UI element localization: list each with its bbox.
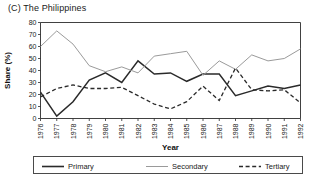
y-tick-label: 60 <box>29 43 37 50</box>
series-line-secondary <box>41 31 301 75</box>
x-tick-label: 1990 <box>265 123 272 139</box>
x-tick-label: 1988 <box>232 123 239 139</box>
x-tick-label: 1986 <box>200 123 207 139</box>
x-tick-label: 1985 <box>183 123 190 139</box>
plot-area: 0102030405060708019761977197819791980198… <box>0 0 311 179</box>
legend-swatch-primary-icon <box>42 163 64 170</box>
legend-item-secondary: Secondary <box>146 157 208 175</box>
x-tick-label: 1989 <box>248 123 255 139</box>
x-tick-label: 1980 <box>102 123 109 139</box>
y-tick-label: 30 <box>29 79 37 86</box>
y-tick-label: 0 <box>33 115 37 122</box>
y-axis-title: Share (%) <box>3 52 12 89</box>
legend-label: Secondary <box>172 162 208 171</box>
y-tick-label: 10 <box>29 103 37 110</box>
y-tick-label: 50 <box>29 55 37 62</box>
x-tick-label: 1979 <box>86 123 93 139</box>
y-tick-label: 20 <box>29 91 37 98</box>
series-line-primary <box>41 61 301 116</box>
legend-swatch-secondary-icon <box>146 163 168 170</box>
x-tick-label: 1978 <box>70 123 77 139</box>
x-tick-label: 1987 <box>216 123 223 139</box>
x-tick-label: 1981 <box>118 123 125 139</box>
x-axis-title: Year <box>162 143 179 152</box>
legend-item-primary: Primary <box>42 157 94 175</box>
chart-legend: PrimarySecondaryTertiary <box>33 156 303 174</box>
legend-label: Tertiary <box>265 162 290 171</box>
x-tick-label: 1992 <box>297 123 304 139</box>
legend-label: Primary <box>68 162 94 171</box>
x-tick-label: 1976 <box>37 123 44 139</box>
x-tick-label: 1984 <box>167 123 174 139</box>
chart-figure: (C) The Philippines 01020304050607080197… <box>0 0 311 179</box>
x-tick-label: 1982 <box>135 123 142 139</box>
y-tick-label: 70 <box>29 31 37 38</box>
x-tick-label: 1983 <box>151 123 158 139</box>
legend-swatch-tertiary-icon <box>239 163 261 170</box>
plot-frame <box>41 23 301 119</box>
y-tick-label: 80 <box>29 19 37 26</box>
y-tick-label: 40 <box>29 67 37 74</box>
legend-item-tertiary: Tertiary <box>239 157 290 175</box>
x-tick-label: 1991 <box>281 123 288 139</box>
x-tick-label: 1977 <box>53 123 60 139</box>
